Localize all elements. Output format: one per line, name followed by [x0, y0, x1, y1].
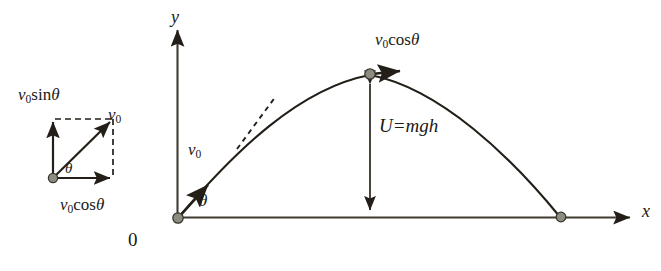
tangent-dashed-line: [237, 96, 276, 149]
landing-point-dot: [556, 212, 566, 222]
apex-point-dot: [365, 69, 375, 79]
potential-energy-label: U=mgh: [379, 116, 438, 135]
inset-angle-label: θ: [65, 161, 72, 176]
launch-angle-label: θ: [199, 192, 207, 209]
x-axis-label: x: [642, 202, 650, 220]
inset-horizontal-component-label: v0cosθ: [60, 196, 104, 213]
inset-resultant-label: v0: [108, 106, 121, 123]
projectile-motion-figure: v0sinθ v0 θ v0cosθ y x 0 v0 θ v0cosθ U=m…: [0, 0, 661, 271]
resultant-velocity-arrow: [54, 122, 110, 177]
figure-canvas: [0, 0, 661, 271]
inset-vertical-component-label: v0sinθ: [18, 86, 60, 103]
y-axis-label: y: [171, 8, 179, 26]
origin-label: 0: [128, 230, 138, 249]
trajectory-group: [173, 69, 566, 223]
launch-velocity-label: v0: [188, 141, 201, 158]
velocity-component-triangle-group: [48, 119, 113, 183]
apex-horizontal-velocity-arrow: [372, 71, 400, 74]
apex-velocity-label: v0cosθ: [375, 31, 419, 48]
trajectory-curve: [178, 75, 560, 218]
inset-origin-dot: [48, 173, 57, 182]
launch-point-dot: [173, 213, 183, 223]
